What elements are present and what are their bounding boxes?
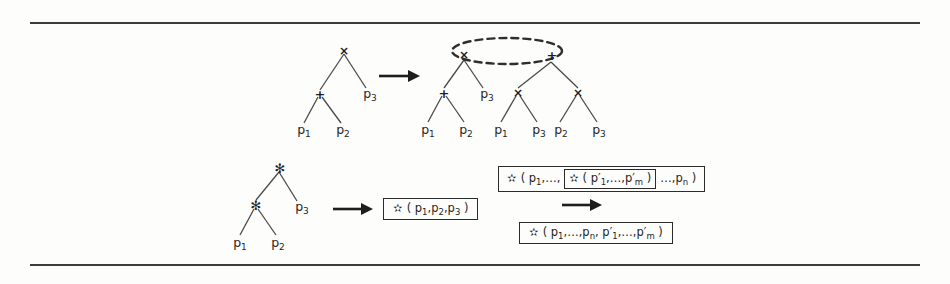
top-transform-arrow xyxy=(379,70,420,82)
nested-outer-suffix: …,pn ) xyxy=(658,173,698,185)
inner-expression-box: ✫ ( p′1,…,p′m ) xyxy=(564,169,656,189)
nested-outer-prefix: ( p1,…, xyxy=(519,173,563,185)
merged-expression-text: ( p1,…,pn, p′1,…,p′m ) xyxy=(541,227,665,239)
star-node-child: ✻ xyxy=(251,199,262,212)
leaf-p2-b: p2 xyxy=(459,124,473,137)
star-operator-icon-merged: ✫ xyxy=(527,227,541,239)
bottom-left-transform-arrow xyxy=(333,203,373,215)
plus-node-inner: + xyxy=(439,87,450,100)
times-node-selected-left: × xyxy=(459,49,469,61)
star-operator-icon-outer: ✫ xyxy=(505,173,519,185)
leaf-p3-b: p3 xyxy=(480,88,494,101)
plus-node-selected-right: + xyxy=(547,49,558,62)
leaf-p1-c: p1 xyxy=(494,124,508,137)
times-node-root-left: × xyxy=(339,45,349,57)
top-left-tree-edges xyxy=(304,54,366,123)
plus-node-left: + xyxy=(315,88,326,101)
leaf-p1-a: p1 xyxy=(297,124,311,137)
leaf-p2-c: p2 xyxy=(554,124,568,137)
leaf-p3-a: p3 xyxy=(363,88,377,101)
leaf-p3-e: p3 xyxy=(295,201,309,214)
times-node-inner-right: × xyxy=(573,87,583,99)
figure-canvas: × + p1 p2 p3 × + + × × p1 p2 p3 p1 p3 p2… xyxy=(0,0,950,284)
flattened-expression-text: ( p1,p2,p3 ) xyxy=(405,203,471,215)
leaf-p1-d: p1 xyxy=(233,237,247,250)
bottom-right-transform-arrow xyxy=(562,199,602,211)
star-operator-icon-inner: ✫ xyxy=(569,173,579,185)
nested-expression-box: ✫ ( p1,…, ✫ ( p′1,…,p′m ) …,pn ) xyxy=(498,166,705,192)
figure-vector-layer xyxy=(0,0,950,284)
leaf-p3-d: p3 xyxy=(592,124,606,137)
star-node-root: ✻ xyxy=(275,162,286,175)
star-operator-icon: ✫ xyxy=(391,203,405,215)
leaf-p3-c: p3 xyxy=(532,124,546,137)
leaf-p1-b: p1 xyxy=(421,124,435,137)
flattened-expression-box: ✫ ( p1,p2,p3 ) xyxy=(383,198,478,220)
times-node-inner-mid: × xyxy=(513,87,523,99)
merged-expression-box: ✫ ( p1,…,pn, p′1,…,p′m ) xyxy=(519,222,673,244)
leaf-p2-a: p2 xyxy=(336,124,350,137)
leaf-p2-d: p2 xyxy=(271,237,285,250)
bottom-left-tree-edges xyxy=(240,172,297,235)
inner-expression-text: ( p′1,…,p′m ) xyxy=(579,173,651,185)
